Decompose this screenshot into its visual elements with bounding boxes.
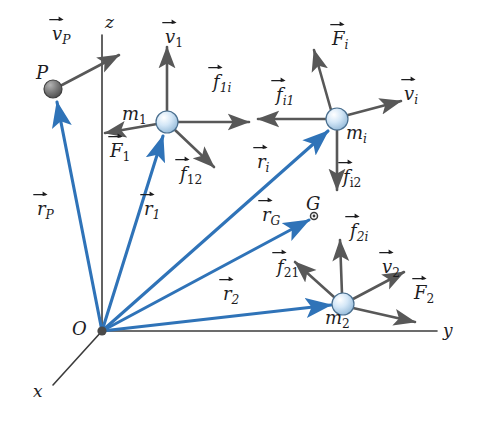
label-F-1: F1 bbox=[110, 142, 130, 163]
label-f-i1: fi1 bbox=[276, 86, 294, 107]
label-f-i2: fi2 bbox=[343, 168, 361, 189]
label-f-21: f21 bbox=[277, 258, 299, 279]
label-v-2: v2 bbox=[382, 258, 400, 279]
particle-P-label: P bbox=[36, 64, 48, 82]
label-F-i: Fi bbox=[332, 30, 348, 51]
y-axis-label: y bbox=[443, 322, 453, 339]
label-F-2: F2 bbox=[414, 284, 434, 305]
center-of-mass-G-label: G bbox=[306, 195, 320, 213]
x-axis-label: x bbox=[33, 383, 43, 400]
particle-mi-label: mi bbox=[346, 124, 367, 145]
physics-diagram-canvas: zyxvPv1f1iF1f12Fifi1vifi2f2if21v2F2rPr1r… bbox=[0, 0, 484, 432]
origin-label: O bbox=[72, 320, 87, 338]
label-f-1i: f1i bbox=[213, 73, 231, 94]
label-r-i: ri bbox=[257, 153, 270, 174]
diagram-labels: zyxvPv1f1iF1f12Fifi1vifi2f2if21v2F2rPr1r… bbox=[0, 0, 484, 432]
label-f-2i: f2i bbox=[350, 222, 368, 243]
particle-m1-label: m1 bbox=[122, 105, 147, 126]
label-r-2: r2 bbox=[223, 285, 239, 306]
label-v-P: vP bbox=[52, 25, 70, 46]
label-v-1: v1 bbox=[165, 28, 183, 49]
label-v-i: vi bbox=[404, 85, 418, 106]
label-r-P: rP bbox=[37, 200, 54, 221]
z-axis-label: z bbox=[105, 14, 114, 31]
label-r-G: rG bbox=[262, 206, 280, 227]
particle-m2-label: m2 bbox=[325, 309, 350, 330]
label-r-1: r1 bbox=[144, 200, 160, 221]
label-f-12: f12 bbox=[180, 165, 202, 186]
